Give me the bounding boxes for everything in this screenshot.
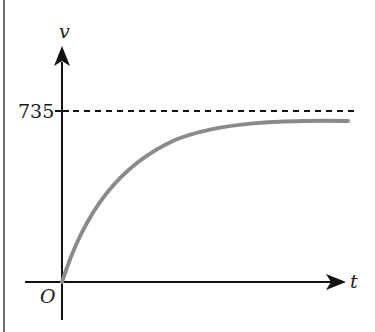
asymptote-value-label: 735 [18, 100, 54, 122]
origin-label: O [40, 285, 56, 307]
velocity-curve [62, 121, 348, 282]
x-axis-label: t [350, 270, 358, 292]
chart-frame: v t O 735 [0, 0, 375, 332]
velocity-time-graph: v t O 735 [0, 0, 375, 332]
y-axis-label: v [59, 20, 70, 42]
